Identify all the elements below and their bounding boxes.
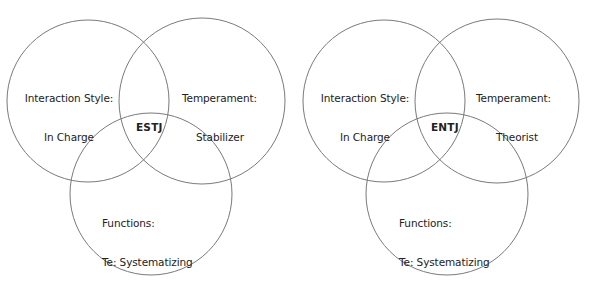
temperament-heading: Temperament: <box>182 92 262 105</box>
temperament-value: Theorist <box>476 131 556 144</box>
function-item: Te: Systematizing <box>102 256 196 269</box>
right-functions-label: Functions: Te: Systematizing Ni: Visioni… <box>399 191 490 285</box>
interaction-style-heading: Interaction Style: <box>22 92 116 105</box>
temperament-value: Stabilizer <box>182 131 262 144</box>
right-type-code: ENTJ <box>431 121 459 133</box>
interaction-style-value: In Charge <box>22 131 116 144</box>
right-temperament-label: Temperament: Theorist <box>476 66 556 170</box>
left-type-code: ESTJ <box>136 121 163 133</box>
functions-heading: Functions: <box>102 217 196 230</box>
temperament-heading: Temperament: <box>476 92 556 105</box>
right-interaction-style-label: Interaction Style: In Charge <box>318 66 412 170</box>
interaction-style-value: In Charge <box>318 131 412 144</box>
left-interaction-style-label: Interaction Style: In Charge <box>22 66 116 170</box>
left-temperament-label: Temperament: Stabilizer <box>182 66 262 170</box>
venn-diagrams: Interaction Style: In Charge Temperament… <box>0 0 591 285</box>
interaction-style-heading: Interaction Style: <box>318 92 412 105</box>
left-functions-label: Functions: Te: Systematizing Si: Recalli… <box>102 191 196 285</box>
functions-heading: Functions: <box>399 217 490 230</box>
function-item: Te: Systematizing <box>399 256 490 269</box>
